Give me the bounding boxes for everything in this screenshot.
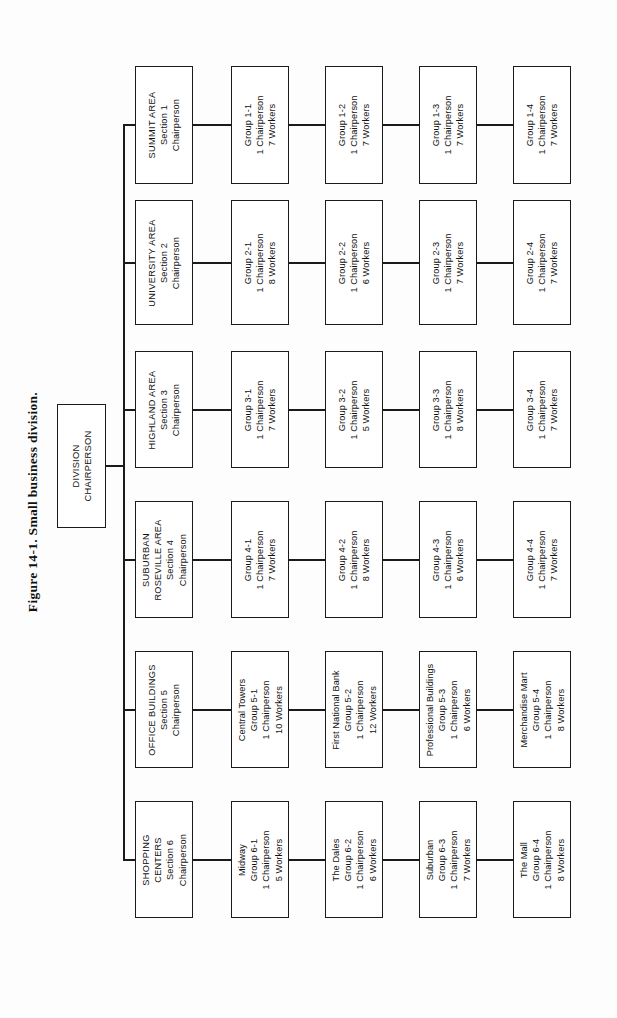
node-group-6-2[interactable]: The DalesGroup 6-21 Chairperson6 Workers [325, 801, 383, 918]
node-text-line: 1 Chairperson [348, 530, 360, 589]
node-text-line: First National Bank [330, 670, 342, 750]
node-division-chairperson[interactable]: DIVISIONCHAIRPERSON [57, 404, 106, 528]
group-connector-line [382, 559, 420, 561]
node-text-line: 6 Workers [366, 830, 378, 889]
node-group-3-4[interactable]: Group 3-41 Chairperson7 Workers [513, 351, 571, 468]
node-text-line: 5 Workers [360, 380, 372, 439]
node-text-line: DIVISION [69, 431, 81, 502]
trunk-vertical-line [123, 125, 125, 860]
group-connector-line [192, 859, 232, 861]
node-text-line: Group 6-3 [436, 830, 448, 889]
node-text-line: 8 Workers [554, 672, 566, 747]
node-text-line: 1 Chairperson [260, 830, 272, 889]
node-text-line: SUMMIT AREA [146, 92, 158, 159]
node-group-2-4[interactable]: Group 2-41 Chairperson7 Workers [513, 200, 571, 325]
group-connector-line [382, 709, 420, 711]
node-section-label: UNIVERSITY AREASection 2Chairperson [146, 219, 183, 306]
node-group-1-3[interactable]: Group 1-31 Chairperson7 Workers [419, 66, 477, 184]
node-text-line: SUBURBAN [140, 519, 152, 600]
node-group-1-2[interactable]: Group 1-21 Chairperson7 Workers [325, 66, 383, 184]
node-group-label: MidwayGroup 6-11 Chairperson5 Workers [236, 830, 285, 889]
node-group-6-4[interactable]: The MallGroup 6-41 Chairperson8 Workers [513, 801, 571, 918]
node-group-5-4[interactable]: Merchandise MartGroup 5-41 Chairperson8 … [513, 651, 571, 768]
root-connector-line [106, 465, 125, 467]
node-text-line: Group 1-2 [336, 95, 348, 154]
node-text-line: 1 Chairperson [442, 95, 454, 154]
node-group-label: Group 2-21 Chairperson6 Workers [336, 233, 373, 292]
node-group-label: Group 4-41 Chairperson7 Workers [524, 530, 561, 589]
group-connector-line [192, 709, 232, 711]
node-group-4-1[interactable]: Group 4-11 Chairperson7 Workers [231, 501, 289, 618]
node-section-2[interactable]: UNIVERSITY AREASection 2Chairperson [135, 200, 193, 325]
node-text-line: 6 Workers [360, 233, 372, 292]
group-connector-line [476, 124, 514, 126]
group-connector-line [288, 262, 326, 264]
node-text-line: 1 Chairperson [254, 380, 266, 439]
node-text-line: Section 4 [164, 519, 176, 600]
group-connector-line [288, 709, 326, 711]
node-group-1-1[interactable]: Group 1-11 Chairperson7 Workers [231, 66, 289, 184]
node-group-2-1[interactable]: Group 2-11 Chairperson8 Workers [231, 200, 289, 325]
node-text-line: Group 4-2 [336, 530, 348, 589]
node-text-line: 1 Chairperson [254, 95, 266, 154]
node-text-line: Chairperson [170, 92, 182, 159]
node-section-1[interactable]: SUMMIT AREASection 1Chairperson [135, 66, 193, 184]
node-group-label: Merchandise MartGroup 5-41 Chairperson8 … [518, 672, 567, 747]
node-text-line: 1 Chairperson [542, 830, 554, 889]
node-group-label: Group 3-31 Chairperson8 Workers [430, 380, 467, 439]
node-group-label: Group 1-21 Chairperson7 Workers [336, 95, 373, 154]
node-group-6-1[interactable]: MidwayGroup 6-11 Chairperson5 Workers [231, 801, 289, 918]
node-text-line: 1 Chairperson [348, 233, 360, 292]
node-section-4[interactable]: SUBURBANROSEVILLE AREASection 4Chairpers… [135, 501, 193, 618]
node-text-line: 6 Workers [454, 530, 466, 589]
node-group-label: Group 1-31 Chairperson7 Workers [430, 95, 467, 154]
node-text-line: 12 Workers [366, 670, 378, 750]
node-text-line: 7 Workers [548, 233, 560, 292]
node-group-2-2[interactable]: Group 2-21 Chairperson6 Workers [325, 200, 383, 325]
node-section-6[interactable]: SHOPPINGCENTERSSection 6Chairperson [135, 801, 193, 918]
node-group-4-2[interactable]: Group 4-21 Chairperson8 Workers [325, 501, 383, 618]
node-group-label: The MallGroup 6-41 Chairperson8 Workers [518, 830, 567, 889]
node-section-5[interactable]: OFFICE BUILDINGSSection 5Chairperson [135, 651, 193, 768]
group-connector-line [476, 859, 514, 861]
node-text-line: CENTERS [152, 833, 164, 885]
node-group-3-3[interactable]: Group 3-31 Chairperson8 Workers [419, 351, 477, 468]
node-group-5-1[interactable]: Central TowersGroup 5-11 Chairperson10 W… [231, 651, 289, 768]
node-section-3[interactable]: HIGHLAND AREASection 3Chairperson [135, 351, 193, 468]
node-text-line: 1 Chairperson [260, 678, 272, 741]
node-text-line: Group 1-4 [524, 95, 536, 154]
node-group-3-2[interactable]: Group 3-21 Chairperson5 Workers [325, 351, 383, 468]
node-group-label: Group 4-31 Chairperson6 Workers [430, 530, 467, 589]
group-connector-line [288, 559, 326, 561]
node-text-line: 1 Chairperson [348, 95, 360, 154]
node-group-label: Group 1-41 Chairperson7 Workers [524, 95, 561, 154]
node-group-label: Group 4-21 Chairperson8 Workers [336, 530, 373, 589]
node-text-line: Chairperson [176, 833, 188, 885]
node-group-label: Group 4-11 Chairperson7 Workers [242, 530, 279, 589]
node-group-label: SuburbanGroup 6-31 Chairperson7 Workers [424, 830, 473, 889]
node-text-line: 1 Chairperson [254, 233, 266, 292]
node-group-4-4[interactable]: Group 4-41 Chairperson7 Workers [513, 501, 571, 618]
figure-caption: Figure 14-1. Small business division. [18, 392, 48, 692]
node-text-line: UNIVERSITY AREA [146, 219, 158, 306]
node-text-line: 1 Chairperson [254, 530, 266, 589]
node-group-3-1[interactable]: Group 3-11 Chairperson7 Workers [231, 351, 289, 468]
node-text-line: Group 4-1 [242, 530, 254, 589]
node-group-1-4[interactable]: Group 1-41 Chairperson7 Workers [513, 66, 571, 184]
node-text-line: Group 2-3 [430, 233, 442, 292]
group-connector-line [288, 409, 326, 411]
node-group-5-3[interactable]: Professional BuildingsGroup 5-31 Chairpe… [419, 651, 477, 768]
node-text-line: 5 Workers [272, 830, 284, 889]
node-text-line: 7 Workers [454, 95, 466, 154]
node-text-line: Group 3-2 [336, 380, 348, 439]
node-group-6-3[interactable]: SuburbanGroup 6-31 Chairperson7 Workers [419, 801, 477, 918]
node-group-2-3[interactable]: Group 2-31 Chairperson7 Workers [419, 200, 477, 325]
node-group-4-3[interactable]: Group 4-31 Chairperson6 Workers [419, 501, 477, 618]
node-group-5-2[interactable]: First National BankGroup 5-21 Chairperso… [325, 651, 383, 768]
group-connector-line [476, 409, 514, 411]
node-group-label: Group 2-41 Chairperson7 Workers [524, 233, 561, 292]
node-text-line: 1 Chairperson [448, 830, 460, 889]
node-text-line: 7 Workers [548, 95, 560, 154]
group-connector-line [288, 859, 326, 861]
node-text-line: Section 3 [158, 370, 170, 449]
